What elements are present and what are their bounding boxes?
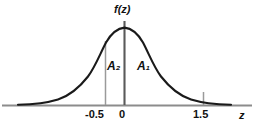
tick-label-one-point-five: 1.5: [193, 109, 208, 120]
figure-canvas: [0, 0, 254, 124]
area-label-a2: A₂: [107, 60, 120, 72]
density-function-label: f(z): [114, 4, 131, 15]
x-axis-label: z: [239, 110, 245, 121]
normal-distribution-figure: f(z) z -0.5 0 1.5 A₂ A₁: [0, 0, 254, 124]
area-label-a1: A₁: [137, 60, 150, 72]
tick-label-zero: 0: [119, 109, 125, 120]
tick-label-minus-half: -0.5: [85, 109, 104, 120]
